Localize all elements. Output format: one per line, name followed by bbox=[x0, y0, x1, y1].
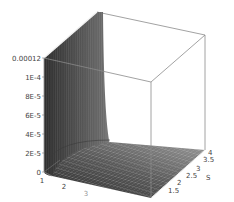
z-tick-label: 0 bbox=[37, 169, 41, 177]
z-tick-label: 8E-5 bbox=[25, 93, 41, 101]
y-tick-label: 2.5 bbox=[186, 172, 197, 180]
y-tick-label: 1.5 bbox=[168, 187, 179, 195]
z-tick-label: 1E-4 bbox=[25, 74, 41, 82]
z-tick-label: 0.00012 bbox=[12, 55, 41, 63]
x-tick-label: 1 bbox=[40, 177, 44, 185]
y-axis-label: S bbox=[206, 174, 211, 182]
y-tick-label: 3.5 bbox=[203, 156, 214, 164]
z-axis-ticks: 0.00012 1E-4 8E-5 6E-5 4E-5 2E-5 0 bbox=[12, 55, 44, 177]
x-tick-label: 3 bbox=[84, 190, 88, 198]
z-tick-label: 4E-5 bbox=[25, 131, 41, 139]
z-tick-label: 2E-5 bbox=[25, 150, 41, 158]
x-tick-label: 2 bbox=[62, 183, 66, 191]
z-tick-label: 6E-5 bbox=[25, 112, 41, 120]
surface-plot-3d: 0.00012 1E-4 8E-5 6E-5 4E-5 2E-5 0 1 2 3… bbox=[0, 0, 234, 202]
y-tick-label: 2 bbox=[177, 179, 181, 187]
